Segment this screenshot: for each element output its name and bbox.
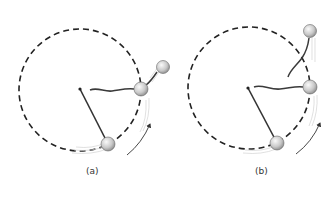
panel-a (19, 29, 170, 155)
rotation-arrow (296, 123, 320, 154)
motion-trail (243, 38, 317, 154)
ball-on-rod (101, 137, 115, 151)
wavy-string (254, 86, 303, 89)
ball-on-rod (270, 136, 284, 150)
pivot-point (78, 87, 81, 90)
caption-b: (b) (255, 166, 268, 176)
loose-ball (157, 61, 170, 74)
rod (248, 88, 276, 141)
panel-b (188, 25, 320, 155)
ball-on-string (134, 82, 148, 96)
wavy-string (90, 89, 134, 91)
motion-trail (72, 64, 162, 154)
rod (80, 89, 107, 142)
loose-ball (304, 25, 317, 38)
short-string (146, 72, 157, 85)
caption-a: (a) (86, 166, 99, 176)
pivot-point (246, 86, 249, 89)
ball-on-string (303, 80, 317, 94)
circular-motion-diagram (0, 0, 334, 212)
rotation-arrow (127, 124, 150, 155)
